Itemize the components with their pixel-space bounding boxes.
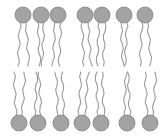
polar-head [94, 7, 110, 23]
fatty-acid-tail [95, 72, 98, 116]
phospholipid [137, 7, 153, 66]
polar-head [33, 7, 49, 23]
phospholipid [33, 7, 49, 66]
bottom-leaflet [11, 72, 158, 131]
fatty-acid-tail [121, 22, 125, 66]
top-leaflet [15, 7, 153, 66]
fatty-acid-tail [124, 72, 128, 116]
polar-head [74, 115, 90, 131]
fatty-acid-tail [81, 22, 85, 66]
fatty-acid-tail [88, 22, 92, 66]
fatty-acid-tail [78, 72, 82, 116]
fatty-acid-tail [41, 22, 44, 66]
polar-head [119, 115, 135, 131]
polar-head [142, 115, 158, 131]
phospholipid [116, 7, 132, 66]
fatty-acid-tail [25, 22, 29, 66]
fatty-acid-tail [144, 72, 148, 116]
phospholipid [53, 72, 69, 131]
fatty-acid-tail [61, 72, 64, 116]
fatty-acid-tail [85, 72, 89, 116]
polar-head [116, 7, 132, 23]
phospholipid [77, 7, 93, 66]
fatty-acid-tail [55, 72, 58, 116]
polar-head [53, 115, 69, 131]
polar-head [77, 7, 93, 23]
fatty-acid-tail [103, 22, 106, 66]
polar-head [137, 7, 153, 23]
fatty-acid-tail [139, 22, 143, 66]
lipid-bilayer-diagram [0, 0, 167, 137]
polar-head [11, 115, 27, 131]
fatty-acid-tail [147, 22, 151, 66]
phospholipid [94, 7, 110, 66]
phospholipid [50, 7, 66, 66]
phospholipid [15, 7, 31, 66]
fatty-acid-tail [37, 22, 40, 66]
fatty-acid-tail [125, 22, 128, 66]
fatty-acid-tail [17, 22, 21, 66]
phospholipid [93, 72, 109, 131]
phospholipid [142, 72, 158, 131]
fatty-acid-tail [58, 22, 61, 66]
fatty-acid-tail [128, 72, 131, 116]
fatty-acid-tail [102, 72, 105, 116]
fatty-acid-tail [38, 72, 41, 116]
phospholipid [119, 72, 135, 131]
fatty-acid-tail [34, 72, 37, 116]
fatty-acid-tail [52, 22, 55, 66]
polar-head [15, 7, 31, 23]
phospholipid [74, 72, 90, 131]
fatty-acid-tail [152, 72, 156, 116]
polar-head [93, 115, 109, 131]
phospholipid [30, 72, 46, 131]
fatty-acid-tail [13, 72, 17, 116]
polar-head [30, 115, 46, 131]
phospholipid [11, 72, 27, 131]
fatty-acid-tail [21, 72, 25, 116]
polar-head [50, 7, 66, 23]
fatty-acid-tail [96, 22, 99, 66]
